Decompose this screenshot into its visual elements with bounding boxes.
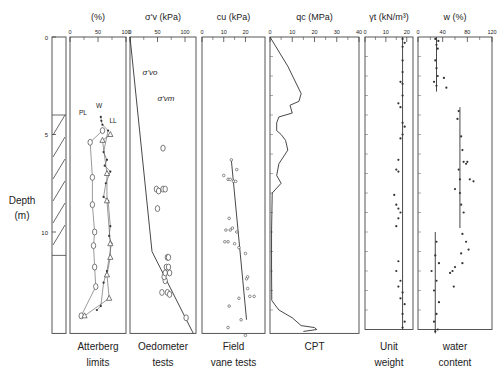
panel-title: w (%) bbox=[443, 12, 467, 22]
depth-axis-label-unit: (m) bbox=[15, 210, 30, 221]
data-point bbox=[395, 169, 397, 171]
data-point bbox=[228, 305, 231, 308]
data-point bbox=[438, 262, 440, 264]
circle-marker bbox=[90, 202, 94, 208]
circle-marker bbox=[166, 264, 170, 270]
data-point bbox=[463, 161, 465, 163]
data-point bbox=[401, 133, 403, 135]
data-point bbox=[238, 246, 241, 249]
data-point bbox=[435, 280, 437, 282]
circle-marker bbox=[92, 264, 96, 270]
panel-title: γt (kN/m³) bbox=[369, 12, 409, 22]
circle-marker bbox=[166, 254, 170, 260]
x-tick-label: 0 bbox=[268, 29, 271, 35]
data-point bbox=[461, 149, 463, 151]
data-point bbox=[401, 46, 403, 48]
data-point bbox=[397, 159, 399, 161]
panel-frame bbox=[70, 37, 126, 333]
x-tick-label: 10 bbox=[221, 29, 227, 35]
data-point bbox=[399, 137, 401, 139]
data-point bbox=[234, 180, 237, 183]
data-point bbox=[253, 295, 256, 298]
data-point bbox=[233, 242, 236, 245]
data-point bbox=[231, 227, 234, 230]
data-point bbox=[460, 204, 462, 206]
circle-marker bbox=[161, 145, 165, 151]
panel-atterberg: 050100(%)AtterberglimitsPLWLL bbox=[68, 12, 130, 368]
data-point bbox=[404, 42, 406, 44]
data-point bbox=[401, 313, 403, 315]
data-point bbox=[445, 87, 447, 89]
depth-tick-label: 10 bbox=[41, 230, 48, 236]
x-tick-label: 10 bbox=[289, 29, 295, 35]
data-point bbox=[103, 196, 105, 198]
panel-frame bbox=[418, 37, 492, 330]
panel-unit-weight: 01020γt (kN/m³)Unitweight bbox=[363, 12, 413, 368]
data-point bbox=[461, 262, 463, 264]
panel-caption: weight bbox=[374, 357, 404, 368]
data-point bbox=[244, 252, 247, 255]
data-point bbox=[437, 48, 439, 50]
data-point bbox=[230, 159, 233, 162]
data-point bbox=[238, 297, 241, 300]
data-point bbox=[460, 135, 462, 137]
data-point bbox=[435, 67, 437, 69]
circle-marker bbox=[94, 284, 98, 290]
x-tick-label: 50 bbox=[95, 29, 101, 35]
data-point bbox=[453, 286, 455, 288]
panel-caption: vane tests bbox=[211, 357, 257, 368]
ll-annotation: LL bbox=[109, 117, 117, 124]
x-tick-label: 40 bbox=[440, 29, 446, 35]
pl-annotation: PL bbox=[79, 109, 87, 116]
triangle-marker bbox=[108, 254, 113, 259]
triangle-marker bbox=[104, 272, 109, 277]
panel-cpt: 010203040qc (MPa)CPT bbox=[268, 12, 362, 352]
depth-column: 0510Depth(m) bbox=[9, 35, 66, 334]
depth-tick-label: 0 bbox=[45, 35, 49, 41]
data-point bbox=[397, 102, 399, 104]
data-point bbox=[105, 182, 107, 184]
data-point bbox=[434, 38, 436, 40]
data-point bbox=[454, 188, 456, 190]
data-point bbox=[401, 59, 403, 61]
circle-marker bbox=[163, 186, 167, 192]
data-point bbox=[435, 241, 437, 243]
data-point bbox=[460, 252, 462, 254]
data-point bbox=[401, 122, 403, 124]
data-point bbox=[235, 231, 238, 234]
data-point bbox=[100, 305, 102, 307]
circle-marker bbox=[100, 128, 104, 134]
data-point bbox=[435, 85, 437, 87]
data-point bbox=[103, 282, 105, 284]
data-point bbox=[227, 240, 230, 243]
hatch-line bbox=[53, 225, 65, 245]
x-tick-label: 10 bbox=[383, 29, 389, 35]
circle-marker bbox=[167, 291, 171, 297]
data-point bbox=[393, 194, 395, 196]
panel-frame bbox=[270, 37, 359, 333]
panel-caption: Unit bbox=[380, 341, 398, 352]
data-point bbox=[228, 217, 231, 220]
data-point bbox=[235, 168, 238, 171]
data-point bbox=[435, 44, 437, 46]
hatch-line bbox=[53, 203, 65, 223]
panel-title: qc (MPa) bbox=[296, 12, 333, 22]
data-point bbox=[104, 165, 106, 167]
data-point bbox=[106, 159, 108, 161]
data-point bbox=[100, 120, 102, 122]
data-point bbox=[449, 272, 451, 274]
data-point bbox=[395, 204, 397, 206]
data-point bbox=[433, 321, 435, 323]
data-point bbox=[438, 301, 440, 303]
data-point bbox=[465, 163, 467, 165]
data-point bbox=[443, 77, 445, 79]
data-point bbox=[465, 241, 467, 243]
data-point bbox=[397, 217, 399, 219]
hatch-line bbox=[53, 159, 65, 179]
data-point bbox=[109, 170, 111, 172]
x-tick-label: 0 bbox=[68, 29, 71, 35]
data-point bbox=[399, 280, 401, 282]
data-point bbox=[397, 286, 399, 288]
geotechnical-profile-figure: 0510Depth(m)050100(%)AtterberglimitsPLWL… bbox=[0, 0, 504, 370]
x-tick-label: 80 bbox=[464, 29, 470, 35]
